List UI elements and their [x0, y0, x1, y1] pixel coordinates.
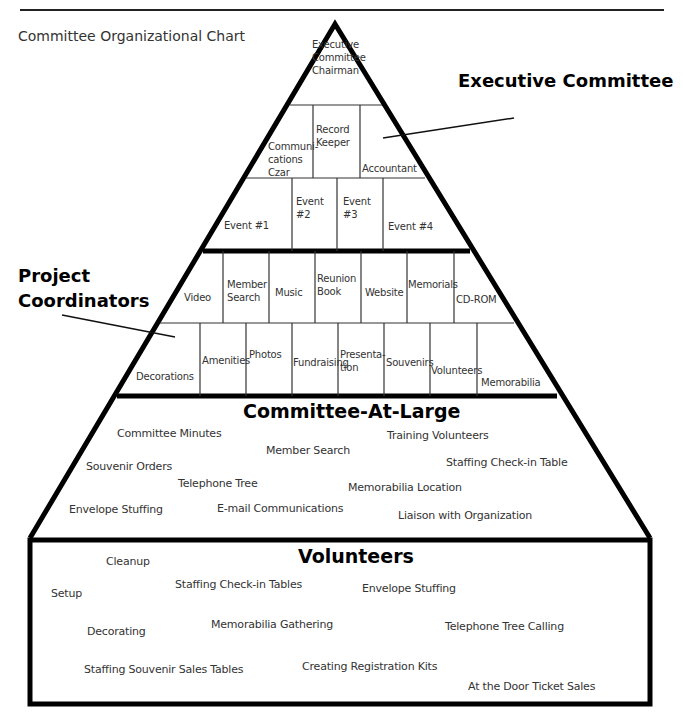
org-chart: Committee Organizational Chart Executive… — [0, 0, 683, 728]
volunteer-task: Setup — [51, 588, 82, 600]
pyramid-cell: Accountant — [362, 162, 417, 175]
pyramid-cell: Music — [275, 286, 302, 299]
committee-task: Envelope Stuffing — [69, 504, 163, 516]
pyramid-cell: Photos — [249, 348, 282, 361]
pyramid-cell: Decorations — [136, 370, 194, 383]
pyramid-cell: Memorabilia — [481, 376, 541, 389]
project-coordinators-label-line2: Coordinators — [18, 290, 149, 311]
committee-task: Souvenir Orders — [86, 461, 172, 473]
volunteers-heading: Volunteers — [298, 545, 414, 567]
committee-task: Training Volunteers — [387, 430, 489, 442]
pyramid-cell: Reunion Book — [317, 272, 356, 298]
committee-task: Committee Minutes — [117, 428, 221, 440]
page-title: Committee Organizational Chart — [18, 28, 245, 44]
pyramid-cell: Communi- cations Czar — [268, 140, 318, 179]
pyramid-cell: Member Search — [227, 278, 267, 304]
volunteer-task: Staffing Souvenir Sales Tables — [84, 664, 243, 676]
pyramid-cell: Executive Committee Chairman — [312, 38, 366, 77]
executive-committee-label: Executive Committee — [458, 70, 673, 91]
pyramid-cell: CD-ROM — [456, 293, 497, 306]
pyramid-cell: Amenities — [202, 354, 250, 367]
committee-task: E-mail Communications — [217, 503, 343, 515]
pyramid-cell: Event #1 — [224, 219, 269, 232]
executive-pointer — [383, 118, 514, 138]
pyramid-cell: Event #4 — [388, 220, 433, 233]
committee-task: Liaison with Organization — [398, 510, 532, 522]
pyramid-cell: Record Keeper — [316, 123, 350, 149]
volunteer-task: Decorating — [87, 626, 146, 638]
committee-task: Memorabilia Location — [348, 482, 462, 494]
volunteer-task: Staffing Check-in Tables — [175, 579, 302, 591]
volunteer-task: Telephone Tree Calling — [445, 621, 564, 633]
volunteer-task: Memorabilia Gathering — [211, 619, 333, 631]
pyramid-cell: Event #3 — [343, 195, 371, 221]
pyramid-cell: Website — [365, 286, 403, 299]
committee-task: Member Search — [266, 445, 350, 457]
volunteer-task: Cleanup — [106, 556, 150, 568]
committee-task: Telephone Tree — [178, 478, 257, 490]
pyramid-cell: Souvenirs — [386, 356, 434, 369]
volunteer-task: Envelope Stuffing — [362, 583, 456, 595]
committee-at-large-heading: Committee-At-Large — [243, 400, 460, 422]
pyramid-cell: Presenta- tion — [340, 348, 385, 374]
project-coordinators-label-line1: Project — [18, 265, 90, 286]
volunteer-task: Creating Registration Kits — [302, 661, 437, 673]
pyramid-cell: Event #2 — [296, 195, 324, 221]
pyramid-cell: Volunteers — [431, 364, 482, 377]
pyramid-cell: Memorials — [408, 278, 458, 291]
committee-task: Staffing Check-in Table — [446, 457, 567, 469]
pyramid-cell: Video — [184, 291, 211, 304]
volunteer-task: At the Door Ticket Sales — [468, 681, 595, 693]
